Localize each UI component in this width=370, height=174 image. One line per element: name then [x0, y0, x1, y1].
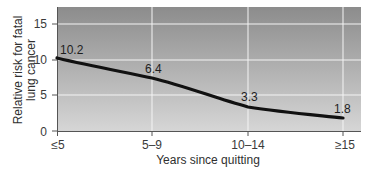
y-axis-title-line-1: Relative risk for fatal [11, 16, 25, 125]
y-tick-label: 5 [40, 88, 47, 102]
x-axis-title: Years since quitting [156, 153, 260, 167]
x-tick-label: ≥15 [335, 138, 355, 152]
line-chart: 15 10 5 0 ≤5 5–9 10–14 ≥15 Years since q… [0, 0, 370, 174]
y-tick-label: 0 [40, 125, 47, 139]
data-label: 6.4 [145, 62, 162, 76]
x-tick-label: 5–9 [142, 138, 162, 152]
y-axis-title-line-2: lung cancer [24, 39, 38, 101]
x-tick-label: ≤5 [51, 138, 65, 152]
data-label: 10.2 [60, 43, 84, 57]
y-tick-label: 15 [34, 17, 48, 31]
data-label: 3.3 [241, 90, 258, 104]
y-ticks [52, 24, 57, 131]
x-tick-label: 10–14 [231, 138, 265, 152]
data-label: 1.8 [334, 102, 351, 116]
